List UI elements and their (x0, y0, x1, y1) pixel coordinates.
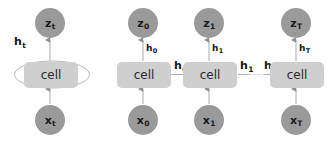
recurrent-state-label-folded: ht (14, 36, 25, 47)
input-node-step0: x0 (128, 105, 158, 135)
cell-folded: cell (24, 62, 78, 88)
output-node-stepT-label: zT (290, 18, 302, 29)
input-node-folded: xt (35, 105, 65, 135)
state-label-vertical-step1: h1 (212, 44, 223, 53)
cell-step0-label: cell (134, 69, 155, 81)
state-label-out-step1: h1 (240, 60, 253, 71)
state-label-vertical-stepT: hT (299, 44, 310, 53)
output-node-step1: z1 (194, 8, 224, 38)
cell-step1: cell (183, 62, 237, 88)
cell-stepT: cell (270, 62, 324, 88)
input-node-step0-label: x0 (137, 115, 149, 126)
output-node-stepT: zT (281, 8, 311, 38)
input-node-step1-label: x1 (203, 115, 215, 126)
input-node-step1: x1 (194, 105, 224, 135)
cell-stepT-label: cell (287, 69, 308, 81)
output-node-folded-label: zt (45, 18, 55, 29)
output-node-step0: z0 (128, 8, 158, 38)
rnn-diagram-figure: zt cell xt ht z0 h0 cell h0 x0 z1 h1 cel… (0, 0, 329, 146)
cell-step1-label: cell (200, 69, 221, 81)
cell-step0: cell (117, 62, 171, 88)
input-node-folded-label: xt (45, 115, 56, 126)
input-node-stepT: xT (281, 105, 311, 135)
cell-folded-label: cell (41, 69, 62, 81)
output-node-folded: zt (35, 8, 65, 38)
output-node-step0-label: z0 (137, 18, 149, 29)
state-label-vertical-step0: h0 (146, 44, 157, 53)
input-node-stepT-label: xT (290, 115, 302, 126)
output-node-step1-label: z1 (203, 18, 215, 29)
